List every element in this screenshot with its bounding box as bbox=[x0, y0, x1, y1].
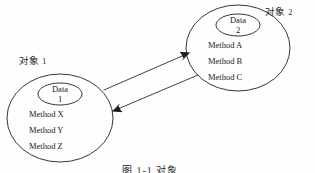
object-2-method-a: Method A bbox=[208, 41, 242, 50]
object-1-method-y: Method Y bbox=[29, 126, 63, 135]
object-1-method-z: Method Z bbox=[29, 142, 63, 151]
object-2-method-c: Method C bbox=[208, 73, 242, 82]
object-2-data-title: Data bbox=[224, 16, 252, 25]
object-1-data-number: 1 bbox=[46, 95, 74, 104]
figure-caption: 图 1-1 对象 bbox=[122, 166, 178, 173]
object-2-method-b: Method B bbox=[208, 57, 242, 66]
object-1-label: 对象 1 bbox=[19, 57, 47, 67]
object-1-method-x: Method X bbox=[29, 110, 64, 119]
object-2-label: 对象 2 bbox=[265, 8, 293, 18]
object-1-data-title: Data bbox=[46, 85, 74, 94]
object-2-data-number: 2 bbox=[224, 26, 252, 35]
figure-canvas: 对象 1 Data 1 Method X Method Y Method Z 对… bbox=[0, 0, 315, 173]
